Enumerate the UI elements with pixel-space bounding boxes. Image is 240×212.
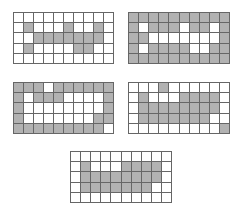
empty-cell [162,162,172,172]
filled-cell [64,23,74,33]
filled-cell [210,13,220,23]
filled-cell [81,172,91,182]
empty-cell [34,23,44,33]
filled-cell [149,114,159,124]
filled-cell [169,103,179,113]
empty-cell [129,124,139,134]
filled-cell [74,44,84,54]
filled-cell [94,114,104,124]
empty-cell [152,152,162,162]
empty-cell [139,44,149,54]
empty-cell [180,33,190,43]
empty-cell [210,23,220,33]
filled-cell [104,114,114,124]
empty-cell [142,193,152,203]
empty-cell [210,33,220,43]
filled-cell [104,83,114,93]
filled-cell [129,33,139,43]
empty-cell [91,152,101,162]
empty-cell [129,103,139,113]
empty-cell [111,162,121,172]
filled-cell [132,162,142,172]
filled-cell [111,172,121,182]
empty-cell [129,114,139,124]
filled-cell [24,83,34,93]
empty-cell [81,193,91,203]
empty-cell [64,103,74,113]
empty-cell [169,83,179,93]
filled-cell [180,114,190,124]
empty-cell [104,13,114,23]
filled-cell [152,162,162,172]
filled-cell [84,83,94,93]
empty-cell [104,54,114,64]
empty-cell [24,54,34,64]
empty-cell [220,83,230,93]
filled-cell [34,124,44,134]
filled-cell [64,124,74,134]
empty-cell [74,114,84,124]
empty-cell [129,93,139,103]
empty-cell [94,103,104,113]
empty-cell [71,162,81,172]
filled-cell [190,54,200,64]
grid-2 [128,12,230,64]
empty-cell [122,193,132,203]
empty-cell [162,183,172,193]
grid-3 [13,82,114,134]
empty-cell [84,13,94,23]
empty-cell [44,23,54,33]
empty-cell [111,193,121,203]
empty-cell [34,103,44,113]
empty-cell [152,193,162,203]
filled-cell [14,83,24,93]
empty-cell [44,44,54,54]
filled-cell [139,54,149,64]
empty-cell [220,114,230,124]
filled-cell [104,93,114,103]
filled-cell [169,44,179,54]
empty-cell [44,103,54,113]
filled-cell [54,93,64,103]
empty-cell [54,103,64,113]
empty-cell [74,23,84,33]
filled-cell [220,44,230,54]
empty-cell [190,44,200,54]
filled-cell [200,103,210,113]
filled-cell [220,124,230,134]
empty-cell [14,13,24,23]
filled-cell [159,114,169,124]
empty-cell [91,193,101,203]
empty-cell [94,93,104,103]
empty-cell [104,33,114,43]
empty-cell [84,54,94,64]
empty-cell [180,124,190,134]
empty-cell [152,183,162,193]
empty-cell [149,83,159,93]
filled-cell [200,54,210,64]
empty-cell [159,33,169,43]
empty-cell [74,103,84,113]
empty-cell [190,124,200,134]
empty-cell [71,152,81,162]
filled-cell [180,103,190,113]
filled-cell [220,33,230,43]
filled-cell [132,172,142,182]
filled-cell [190,103,200,113]
filled-cell [129,13,139,23]
empty-cell [132,193,142,203]
empty-cell [139,124,149,134]
empty-cell [200,83,210,93]
filled-cell [200,114,210,124]
filled-cell [149,54,159,64]
empty-cell [169,93,179,103]
empty-cell [162,172,172,182]
filled-cell [14,93,24,103]
empty-cell [180,23,190,33]
empty-cell [54,54,64,64]
empty-cell [64,44,74,54]
empty-cell [139,23,149,33]
empty-cell [84,23,94,33]
empty-cell [210,83,220,93]
filled-cell [149,44,159,54]
